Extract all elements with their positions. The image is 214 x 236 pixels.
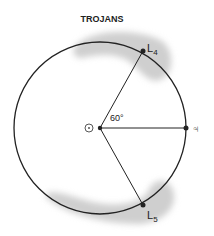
l5-point bbox=[141, 203, 146, 208]
trojan-diagram: TROJANS 60° ♃ L4 L5 bbox=[0, 0, 214, 236]
title: TROJANS bbox=[80, 14, 123, 24]
sun-dot bbox=[98, 126, 102, 130]
angle-label: 60° bbox=[110, 113, 124, 123]
sun-l5-line bbox=[100, 128, 143, 205]
l4-point bbox=[141, 49, 146, 54]
jupiter-label: ♃ bbox=[192, 123, 200, 134]
sun-icon-center bbox=[88, 127, 90, 129]
jupiter-point bbox=[184, 126, 189, 131]
